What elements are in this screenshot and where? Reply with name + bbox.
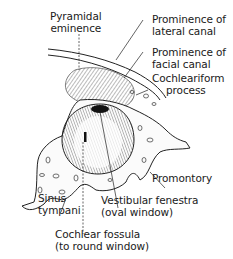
label-pyramidal-eminence: Pyramidal eminence bbox=[50, 10, 102, 34]
label-prominence-facial-canal: Prominence of facial canal bbox=[152, 46, 226, 70]
label-cochleariform-process: Cochleariform process bbox=[152, 72, 224, 96]
label-cochlear-fossula: Cochlear fossula (to round window) bbox=[55, 228, 149, 252]
label-promontory: Promontory bbox=[152, 172, 212, 184]
label-sinus-tympani: Sinus tympani bbox=[38, 192, 81, 216]
label-prominence-lateral-canal: Prominence of lateral canal bbox=[152, 13, 226, 37]
anatomy-illustration bbox=[0, 0, 233, 259]
label-vestibular-fenestra: Vestibular fenestra (oval window) bbox=[101, 194, 198, 218]
oval-window bbox=[91, 105, 109, 113]
